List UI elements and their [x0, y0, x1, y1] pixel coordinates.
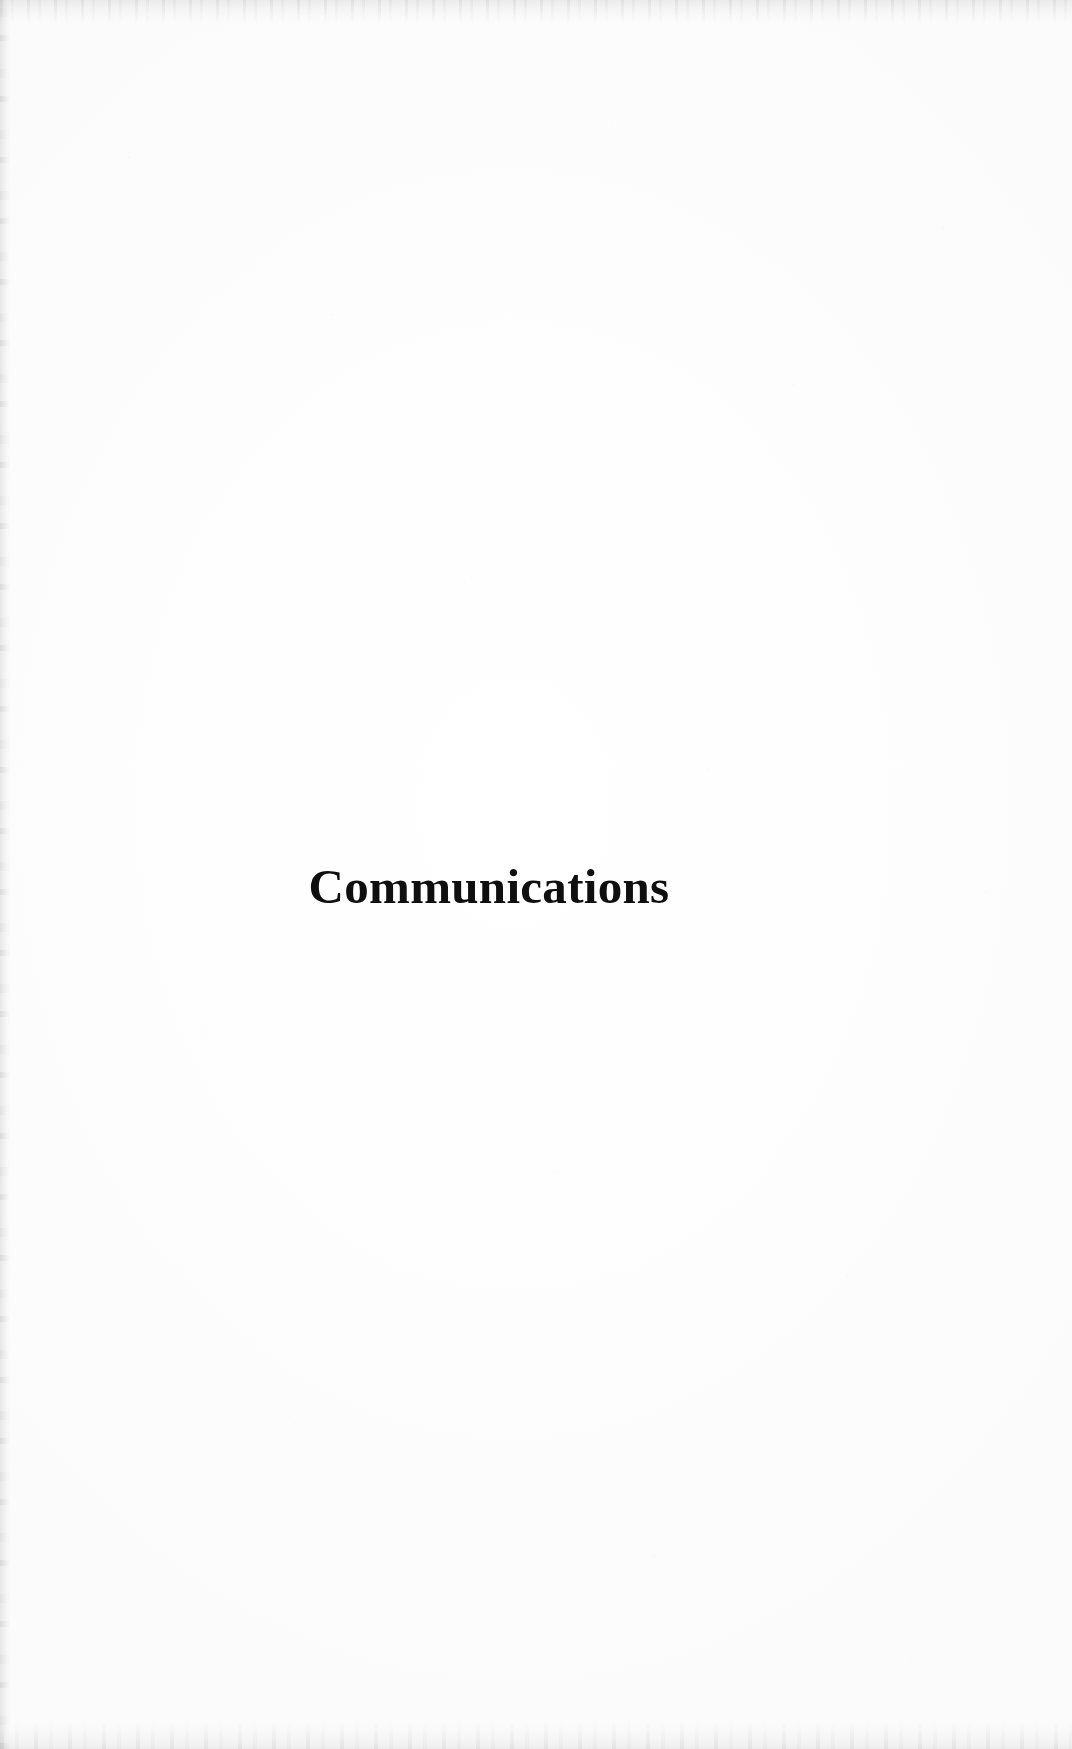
section-title: Communications: [309, 862, 670, 911]
scan-edge-artifact-bottom: [0, 1719, 1072, 1749]
scanned-page: Communications: [0, 0, 1072, 1749]
scan-edge-artifact-top: [0, 0, 1072, 26]
section-title-block: Communications: [0, 862, 1072, 911]
